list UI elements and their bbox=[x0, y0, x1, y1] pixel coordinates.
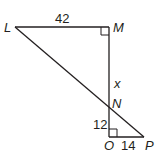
length-label-NO: 12 bbox=[93, 117, 107, 132]
length-label-LM: 42 bbox=[55, 11, 69, 26]
right-angle-marker-M bbox=[101, 27, 109, 35]
point-label-L: L bbox=[4, 20, 11, 35]
geometry-diagram: L M N O P 42 x 12 14 bbox=[0, 0, 159, 151]
length-label-OP: 14 bbox=[121, 138, 135, 151]
point-label-O: O bbox=[104, 138, 114, 151]
point-label-P: P bbox=[145, 138, 154, 151]
length-label-MN: x bbox=[113, 76, 121, 91]
right-angle-marker-O bbox=[109, 129, 117, 137]
point-label-M: M bbox=[113, 20, 124, 35]
segment-LP bbox=[15, 27, 144, 137]
point-label-N: N bbox=[112, 96, 122, 111]
